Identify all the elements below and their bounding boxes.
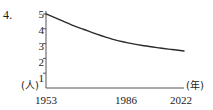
chart-figure: 4. 5 4 3 2 1 (人) (年) 1953 1986 2022 xyxy=(0,0,213,110)
plot-area xyxy=(0,0,213,110)
data-line-series xyxy=(46,14,184,51)
